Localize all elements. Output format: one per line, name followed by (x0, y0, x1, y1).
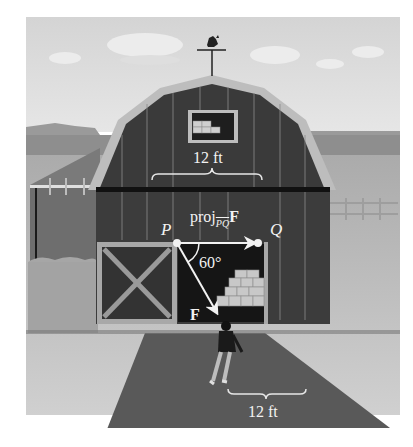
label-top-dimension: 12 ft (193, 150, 223, 166)
barn-door-left (97, 242, 177, 324)
barn-beam (96, 187, 330, 192)
label-point-p: P (161, 221, 171, 238)
label-point-q: Q (270, 221, 282, 238)
point-q-dot (254, 239, 262, 247)
projection-prefix: proj (190, 208, 216, 225)
left-shed (30, 185, 100, 265)
label-force: F (190, 307, 200, 323)
point-p-dot (173, 239, 181, 247)
label-bottom-dimension: 12 ft (248, 404, 278, 420)
label-angle: 60° (199, 255, 221, 271)
projection-vector-name: F (229, 208, 239, 225)
label-projection: projPQF (190, 209, 239, 225)
projection-subscript: PQ (216, 218, 229, 229)
